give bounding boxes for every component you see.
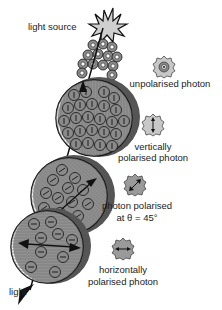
diagonal-label-line2: at θ = 45°	[92, 212, 182, 223]
light-label: light	[9, 286, 26, 297]
unpolarised-photon-icon	[153, 56, 175, 78]
vertically-label-line2: polarised photon	[103, 152, 203, 163]
horizontally-label-line1: horizontally	[78, 264, 168, 275]
horizontal-photon-icon	[112, 238, 134, 260]
horizontally-label-line2: polarised photon	[78, 276, 168, 287]
vertically-label-line1: vertically	[103, 141, 203, 152]
vertical-photon-icon	[142, 114, 164, 136]
light-source-label: light source	[28, 21, 77, 32]
diagonal-label-line1: photon polarised	[92, 200, 182, 211]
unpolarised-photon-label: unpolarised photon	[120, 78, 220, 89]
light-source-star-icon	[89, 8, 127, 42]
diagonal-photon-icon	[124, 174, 146, 196]
